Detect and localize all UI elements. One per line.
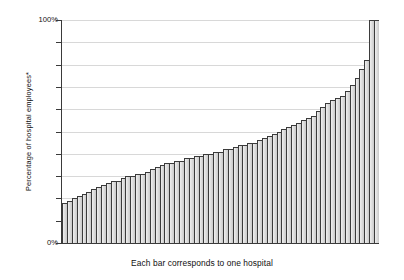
y-axis-title: Percentage of hospital employees* — [22, 20, 36, 243]
plot-area — [62, 20, 379, 243]
bar-series — [62, 20, 379, 243]
chart-figure: Percentage of hospital employees* 100% 0… — [0, 0, 404, 280]
y-axis-tick-mark — [56, 243, 62, 244]
y-axis-tick-label-0: 0% — [24, 238, 58, 247]
bar — [374, 20, 379, 243]
y-axis-tick-label-100: 100% — [24, 15, 58, 24]
chart-caption: Each bar corresponds to one hospital — [0, 258, 404, 268]
x-axis-spine — [56, 243, 379, 244]
